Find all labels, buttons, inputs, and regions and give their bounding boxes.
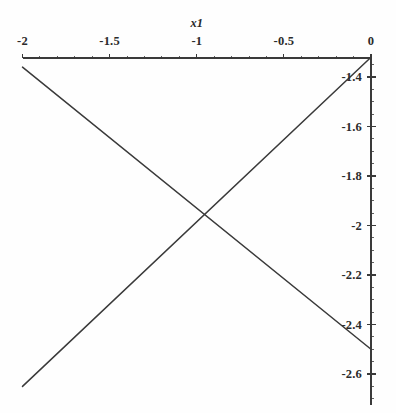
series-line-falling <box>23 67 372 349</box>
y-tick-label: -2.4 <box>341 317 362 332</box>
major-ticks-group <box>23 54 376 375</box>
x-tick-label: -0.5 <box>274 34 295 49</box>
y-tick-label: -1.6 <box>341 119 362 134</box>
x-tick-label: -1 <box>191 34 202 49</box>
chart-figure: x1 -2-1.5-1-0.50 -1.4-1.6-1.8-2-2.2-2.4-… <box>0 0 396 413</box>
x-tick-label: -2 <box>17 34 28 49</box>
x-axis-title: x1 <box>191 16 204 31</box>
y-tick-label: -1.8 <box>341 169 362 184</box>
y-tick-label: -2.2 <box>341 268 362 283</box>
data-series-group <box>23 57 372 386</box>
minor-ticks-group <box>40 56 374 399</box>
y-tick-label: -2.6 <box>341 367 362 382</box>
y-tick-label: -1.4 <box>341 70 362 85</box>
plot-area <box>0 0 396 413</box>
series-line-rising <box>23 57 372 386</box>
x-tick-label: 0 <box>368 34 374 49</box>
y-tick-label: -2 <box>351 218 362 233</box>
x-tick-label: -1.5 <box>99 34 120 49</box>
